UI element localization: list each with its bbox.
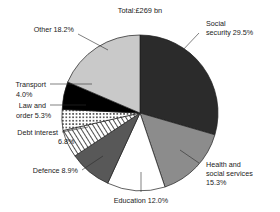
leader-line-social-security	[181, 33, 199, 52]
label-health-line3: 15.3%	[206, 178, 227, 187]
pie-chart: Total:£269 bn	[0, 0, 280, 212]
label-law-and-order-line2: order 5.3%	[16, 111, 52, 120]
pie-slices	[62, 35, 218, 191]
label-debt-interest-line2: 6.8%	[58, 137, 75, 146]
label-debt-interest-line1: Debt interest	[17, 128, 58, 137]
label-social-security-line1: Social	[206, 19, 226, 28]
label-other: Other 18.2%	[34, 25, 75, 34]
chart-title: Total:£269 bn	[118, 6, 162, 15]
label-law-and-order-line1: Law and	[19, 101, 46, 110]
label-defence: Defence 8.9%	[33, 166, 79, 175]
label-education: Education 12.0%	[114, 196, 169, 205]
label-health-line2: social services	[206, 169, 253, 178]
label-transport-line2: 4.0%	[16, 90, 33, 99]
leader-line-other	[78, 34, 108, 50]
label-social-security-line2: security 29.5%	[206, 28, 254, 37]
chart-canvas: Total:£269 bn	[0, 0, 280, 212]
label-transport-line1: Transport	[16, 80, 47, 89]
label-health-line1: Health and	[206, 160, 241, 169]
